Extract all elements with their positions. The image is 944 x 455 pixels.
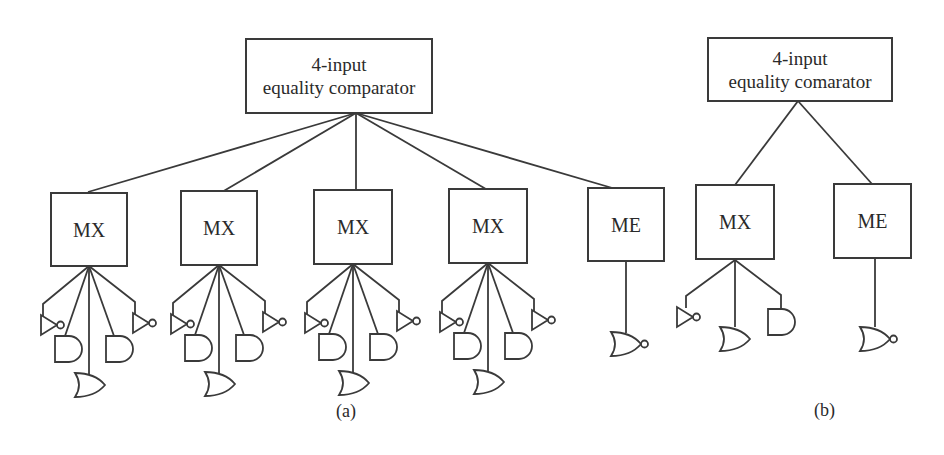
- figure-b-caption: (b): [814, 400, 835, 421]
- box-label: MX: [73, 218, 105, 242]
- nor-gate-icon: [860, 327, 897, 351]
- comparator-title-line2: equality comarator: [729, 70, 872, 93]
- figure-a-mx-box-4: MX: [448, 188, 528, 264]
- figure-a-me-box: ME: [587, 187, 665, 262]
- figure-a-connectors: [88, 113, 626, 192]
- figure-a-caption: (a): [336, 401, 356, 422]
- me-a-gates: [611, 261, 648, 356]
- figure-b-connectors: [735, 101, 872, 185]
- figure-a-mx-box-1: MX: [50, 192, 128, 267]
- box-label: ME: [858, 209, 888, 233]
- box-label: MX: [337, 215, 369, 239]
- box-label: ME: [611, 213, 641, 237]
- box-label: MX: [719, 210, 751, 234]
- mx1-gates: [41, 266, 156, 397]
- figure-b-me-box: ME: [833, 183, 912, 259]
- mx2-gates: [171, 265, 286, 396]
- box-label: MX: [203, 216, 235, 240]
- figure-b-comparator-box: 4-input equality comarator: [707, 37, 893, 102]
- comparator-title-line1: 4-input: [263, 53, 415, 76]
- comparator-title-line2: equality comparator: [263, 76, 415, 99]
- figure-a-mx-box-2: MX: [180, 190, 258, 266]
- figure-a-comparator-box: 4-input equality comparator: [245, 38, 433, 114]
- and-gate-icon: [768, 309, 795, 335]
- not-gate-icon: [677, 307, 700, 327]
- mx4-gates: [440, 263, 555, 394]
- box-label: MX: [472, 214, 504, 238]
- figure-a-mx-box-3: MX: [313, 189, 393, 265]
- me-b-gates: [860, 259, 897, 351]
- figure-b-mx-box: MX: [695, 184, 775, 260]
- comparator-title-line1: 4-input: [729, 47, 872, 70]
- mx3-gates: [305, 264, 420, 395]
- or-gate-icon: [720, 327, 750, 351]
- nor-gate-icon: [611, 332, 648, 356]
